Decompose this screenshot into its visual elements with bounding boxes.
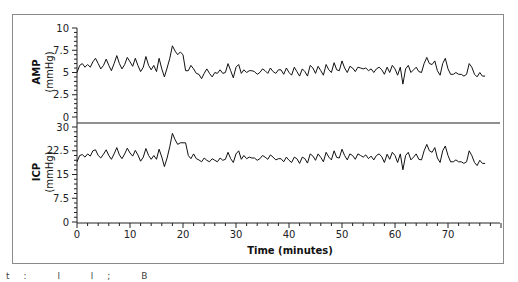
x-tick-label: 10 <box>124 229 137 240</box>
icp-y-title-line2: (mmHg) <box>44 151 55 192</box>
amp-y-tick-label: 2.5 <box>53 89 69 100</box>
x-axis-title: Time (minutes) <box>247 245 333 256</box>
x-tick-label: 60 <box>389 229 402 240</box>
x-tick-label: 50 <box>336 229 349 240</box>
amp-y-tick-label: 10 <box>56 23 69 34</box>
figure-caption-fragment: t: l l; B <box>6 271 161 281</box>
icp-trace <box>77 133 485 170</box>
icp-y-tick-label: 7.5 <box>53 193 69 204</box>
chart-canvas: 02.557.510 07.51522.530 010203040506070 … <box>0 0 518 282</box>
x-tick-label: 30 <box>230 229 243 240</box>
icp-y-tick-label: 30 <box>56 122 69 133</box>
x-tick-label: 0 <box>74 229 80 240</box>
amp-trace <box>77 46 485 84</box>
amp-y-tick-label: 5 <box>63 67 69 78</box>
x-tick-label: 70 <box>442 229 455 240</box>
amp-y-title-line1: AMP <box>31 59 42 84</box>
amp-y-title-line2: (mmHg) <box>44 51 55 92</box>
icp-y-tick-label: 15 <box>56 169 69 180</box>
x-tick-label: 40 <box>283 229 296 240</box>
amp-y-ticks: 02.557.510 <box>53 23 77 123</box>
amp-y-tick-label: 7.5 <box>53 45 69 56</box>
icp-y-tick-label: 0 <box>63 217 69 228</box>
x-ticks: 010203040506070 <box>74 223 501 240</box>
icp-y-title-line1: ICP <box>31 163 42 181</box>
x-tick-label: 20 <box>177 229 190 240</box>
